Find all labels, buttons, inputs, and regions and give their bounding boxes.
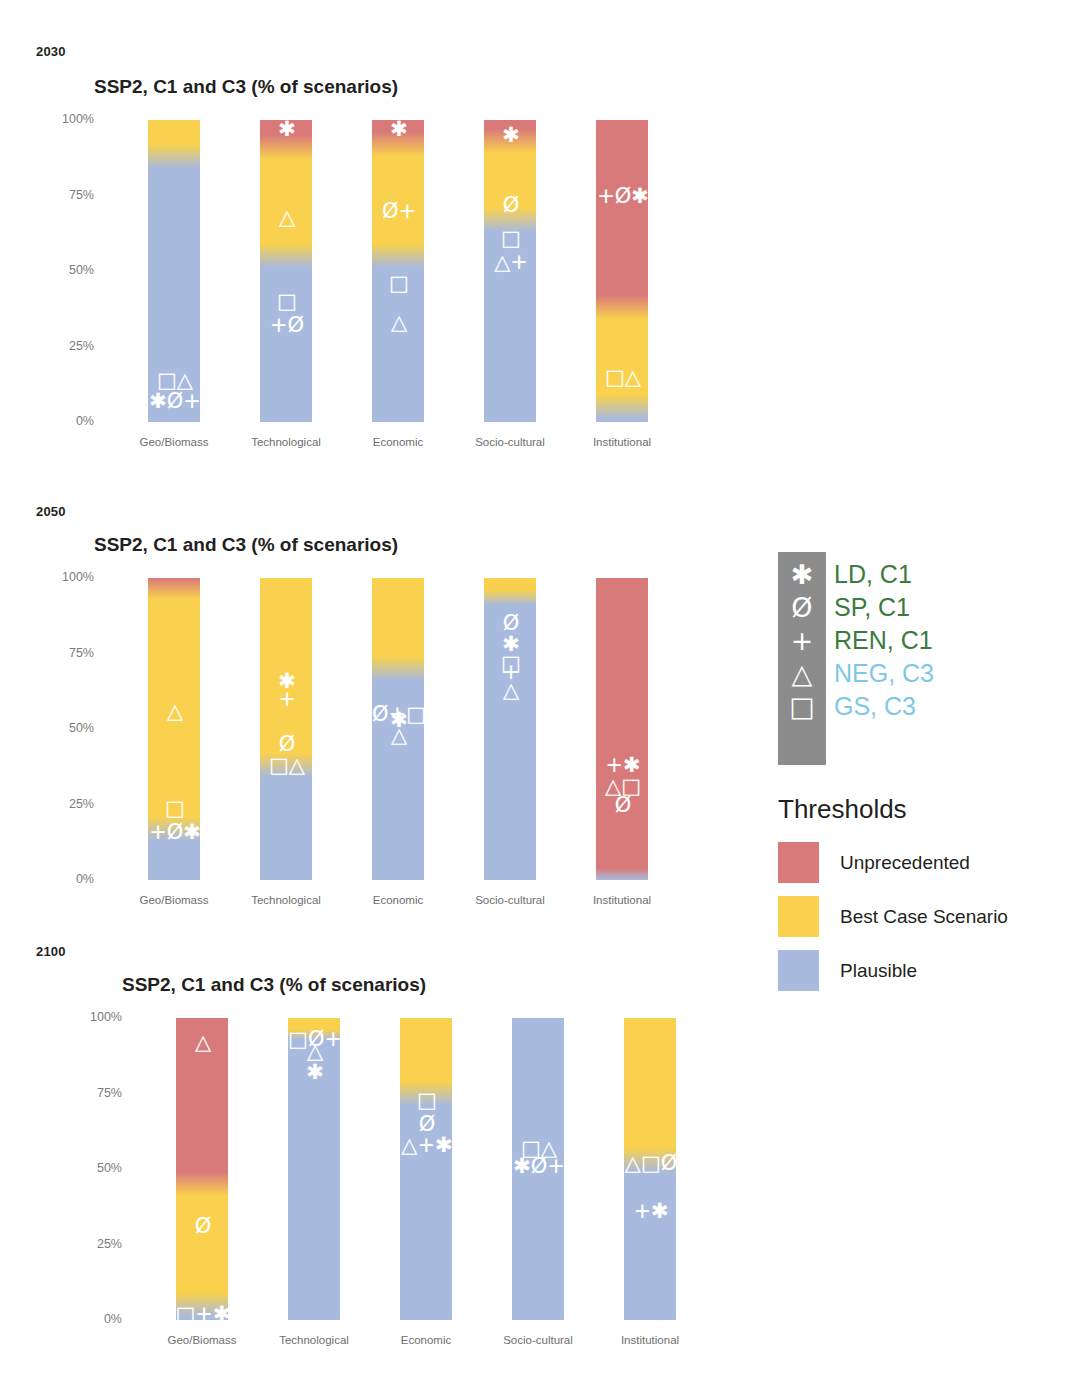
bar-annotations: Ø✱□+△ xyxy=(484,578,536,880)
y-axis-tick-100: 100% xyxy=(38,570,94,584)
scenario-marker: □+✱ xyxy=(176,1303,231,1324)
x-axis-label-socio-cultural: Socio-cultural xyxy=(454,436,566,448)
scenario-marker: +✱ xyxy=(633,1201,668,1222)
thresholds-title: Thresholds xyxy=(778,794,907,825)
bar-technological[interactable]: ✱△□+Ø xyxy=(260,120,312,422)
bar-annotations: △□Ø+✱ xyxy=(624,1018,676,1320)
scenario-marker: Ø xyxy=(419,1113,436,1134)
scenario-marker: △+ xyxy=(494,251,528,272)
scenario-marker: +Ø✱ xyxy=(597,185,649,206)
scenario-marker: +Ø✱ xyxy=(149,821,201,842)
bar-geo-biomass[interactable]: △□+Ø✱ xyxy=(148,578,200,880)
x-axis-label-economic: Economic xyxy=(342,436,454,448)
bar-geo-biomass[interactable]: □△✱Ø+ xyxy=(148,120,200,422)
y-axis-tick-0: 0% xyxy=(38,872,94,886)
scenario-marker: ✱Ø+ xyxy=(149,390,201,411)
year-label-2050: 2050 xyxy=(36,504,66,519)
legend-glyph-ld: ✱ xyxy=(791,558,814,591)
bar-annotations: ✱+Ø□△ xyxy=(260,578,312,880)
scenario-marker: △ xyxy=(391,725,407,746)
y-axis-tick-0: 0% xyxy=(38,414,94,428)
bar-institutional[interactable]: △□Ø+✱ xyxy=(624,1018,676,1320)
scenario-marker: + xyxy=(278,688,296,709)
threshold-label: Unprecedented xyxy=(840,842,970,883)
scenario-marker: △ xyxy=(391,312,407,333)
threshold-label: Plausible xyxy=(840,950,917,991)
scenario-marker: □ xyxy=(165,797,185,818)
bar-geo-biomass[interactable]: △Ø□+✱ xyxy=(176,1018,228,1320)
scenario-marker: □△ xyxy=(157,369,193,390)
year-label-2100: 2100 xyxy=(36,944,66,959)
legend-label-ld: LD, C1 xyxy=(834,558,934,591)
scenario-marker: △ xyxy=(279,206,295,227)
bar-annotations: ✱Ø+□△ xyxy=(372,120,424,422)
bar-annotations: ✱Ø□△+ xyxy=(484,120,536,422)
x-axis-label-institutional: Institutional xyxy=(566,894,678,906)
x-axis-label-socio-cultural: Socio-cultural xyxy=(482,1334,594,1346)
x-axis-label-geo-biomass: Geo/Biomass xyxy=(146,1334,258,1346)
bar-annotations: □Ø+△✱ xyxy=(288,1018,340,1320)
bar-economic[interactable]: ✱Ø+□△ xyxy=(372,120,424,422)
x-axis-label-institutional: Institutional xyxy=(566,436,678,448)
scenario-marker: □ xyxy=(417,1089,437,1110)
y-axis-tick-25: 25% xyxy=(66,1237,122,1251)
legend-symbol-column: ✱Ø+△□ xyxy=(778,558,826,723)
legend-label-ren: REN, C1 xyxy=(834,624,934,657)
bar-socio-cultural[interactable]: ✱Ø□△+ xyxy=(484,120,536,422)
x-axis-label-technological: Technological xyxy=(230,436,342,448)
x-axis-label-economic: Economic xyxy=(342,894,454,906)
scenario-marker: Ø xyxy=(503,194,520,215)
scenario-marker: △ xyxy=(195,1032,211,1053)
y-axis-tick-100: 100% xyxy=(66,1010,122,1024)
bar-annotations: △□+Ø✱ xyxy=(148,578,200,880)
scenario-marker: Ø+ xyxy=(382,200,416,221)
x-axis-label-socio-cultural: Socio-cultural xyxy=(454,894,566,906)
threshold-label: Best Case Scenario xyxy=(840,896,1008,937)
panel-2100: 2100 SSP2, C1 and C3 (% of scenarios) 10… xyxy=(0,930,760,1390)
legend-label-gs: GS, C3 xyxy=(834,690,934,723)
scenario-marker: Ø xyxy=(195,1216,212,1237)
bar-annotations: □△✱Ø+ xyxy=(512,1018,564,1320)
x-axis-label-geo-biomass: Geo/Biomass xyxy=(118,894,230,906)
threshold-swatch xyxy=(778,950,819,991)
bar-institutional[interactable]: +✱△□Ø xyxy=(596,578,648,880)
bar-socio-cultural[interactable]: Ø✱□+△ xyxy=(484,578,536,880)
bar-economic[interactable]: Ø+□✱△ xyxy=(372,578,424,880)
y-axis-tick-75: 75% xyxy=(66,1086,122,1100)
threshold-item-best-case-scenario: Best Case Scenario xyxy=(778,896,1068,937)
bar-annotations: Ø+□✱△ xyxy=(372,578,424,880)
bar-institutional[interactable]: +Ø✱□△ xyxy=(596,120,648,422)
bar-technological[interactable]: ✱+Ø□△ xyxy=(260,578,312,880)
y-axis-tick-100: 100% xyxy=(38,112,94,126)
scenario-marker: ✱ xyxy=(502,125,520,146)
legend-label-neg: NEG, C3 xyxy=(834,657,934,690)
scenario-marker: Ø xyxy=(503,613,520,634)
bar-economic[interactable]: □Ø△+✱ xyxy=(400,1018,452,1320)
scenario-marker: ✱Ø+ xyxy=(513,1155,565,1176)
y-axis-tick-25: 25% xyxy=(38,797,94,811)
threshold-swatch xyxy=(778,896,819,937)
scenario-marker: □△ xyxy=(269,755,305,776)
panel-2030: 2030 SSP2, C1 and C3 (% of scenarios) 10… xyxy=(0,0,760,470)
scenario-marker: □△ xyxy=(605,366,641,387)
panel-2050: 2050 SSP2, C1 and C3 (% of scenarios) 10… xyxy=(0,490,760,920)
scenario-marker: △ xyxy=(307,1041,323,1062)
bar-socio-cultural[interactable]: □△✱Ø+ xyxy=(512,1018,564,1320)
bar-technological[interactable]: □Ø+△✱ xyxy=(288,1018,340,1320)
y-axis-tick-50: 50% xyxy=(38,263,94,277)
scenario-marker: ✱ xyxy=(278,119,296,140)
bar-annotations: □Ø△+✱ xyxy=(400,1018,452,1320)
legend-glyph-neg: △ xyxy=(792,657,813,690)
scenario-marker: △□Ø xyxy=(625,1152,678,1173)
scenario-marker: △ xyxy=(503,679,519,700)
bar-annotations: +✱△□Ø xyxy=(596,578,648,880)
legend-label-column: LD, C1SP, C1REN, C1NEG, C3GS, C3 xyxy=(834,558,934,723)
threshold-swatch xyxy=(778,842,819,883)
y-axis-tick-0: 0% xyxy=(66,1312,122,1326)
legend-glyph-gs: □ xyxy=(789,690,815,723)
scenario-marker: □ xyxy=(277,291,297,312)
legend-glyph-sp: Ø xyxy=(791,591,812,624)
x-axis-label-institutional: Institutional xyxy=(594,1334,706,1346)
legend-glyph-ren: + xyxy=(791,624,814,657)
scenario-marker: +✱ xyxy=(605,755,640,776)
